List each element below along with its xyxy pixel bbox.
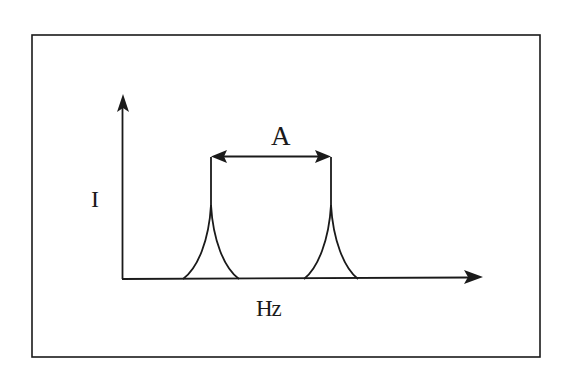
separation-arrow <box>211 150 331 163</box>
y-axis-label: I <box>91 187 99 211</box>
spectrum-diagram <box>0 0 567 371</box>
diagram-frame <box>32 35 540 357</box>
separation-label: A <box>271 123 291 150</box>
x-axis <box>122 270 483 284</box>
right-peak <box>304 157 358 279</box>
x-axis-label: Hz <box>256 297 281 320</box>
left-peak <box>183 157 239 279</box>
y-axis <box>117 94 129 279</box>
